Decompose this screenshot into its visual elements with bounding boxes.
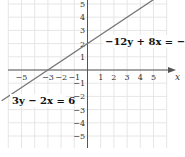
equation-label-2: 3y − 2x = 6 [12, 95, 75, 106]
x-tick-label: −3 [42, 73, 54, 82]
y-tick-label: 3 [80, 26, 85, 35]
coordinate-plane: −5−3−2−11234554321−1−2−3−4−5 x −12y + 8x… [0, 0, 185, 157]
x-tick-label: 5 [151, 73, 156, 82]
y-tick-label: 5 [80, 0, 85, 9]
x-tick-label: −2 [55, 73, 67, 82]
x-tick-label: 2 [111, 73, 116, 82]
x-tick-label: −5 [16, 73, 28, 82]
y-tick-label: −5 [73, 132, 85, 141]
y-tick-label: −3 [73, 106, 85, 115]
x-tick-label: 3 [125, 73, 130, 82]
x-tick-label: 4 [138, 73, 143, 82]
y-tick-label: 4 [80, 13, 85, 22]
y-tick-label: −1 [73, 79, 85, 88]
y-tick-label: −4 [73, 119, 85, 128]
x-axis-label: x [175, 72, 180, 82]
equation-label-1: −12y + 8x = −24 [105, 36, 185, 47]
x-tick-label: 1 [98, 73, 103, 82]
y-tick-label: 1 [80, 53, 85, 62]
